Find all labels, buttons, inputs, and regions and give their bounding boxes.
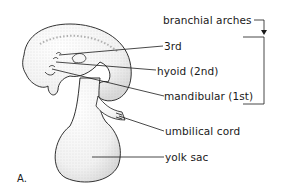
panel-label: A. xyxy=(17,173,27,184)
label-umbilical-cord: umbilical cord xyxy=(165,125,240,137)
label-hyoid-arch: hyoid (2nd) xyxy=(157,65,219,77)
embryo-diagram: branchial arches 3rd hyoid (2nd) mandibu… xyxy=(0,0,281,191)
label-branchial-arches: branchial arches xyxy=(163,14,252,26)
label-third-arch: 3rd xyxy=(164,40,182,52)
embryo-body xyxy=(23,24,132,101)
label-mandibular-arch: mandibular (1st) xyxy=(164,90,253,102)
label-yolk-sac: yolk sac xyxy=(165,151,208,163)
